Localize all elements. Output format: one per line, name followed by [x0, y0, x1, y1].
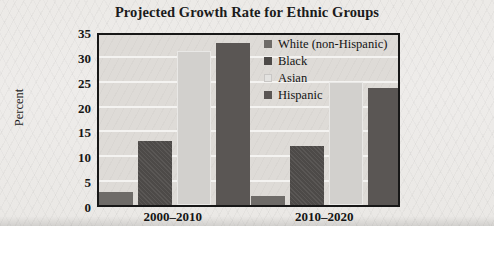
legend-swatch-icon-asian: [264, 74, 272, 82]
y-axis-tick-10: 10: [78, 151, 91, 164]
bar-hispanic-group-1: [216, 43, 250, 205]
legend-item-asian: Asian: [264, 70, 387, 86]
bar-white-group-1: [99, 192, 133, 205]
y-axis-tick-5: 5: [85, 176, 92, 189]
chart-page: Projected Growth Rate for Ethnic Groups …: [0, 0, 494, 254]
bar-white-group-2: [251, 196, 285, 205]
legend-swatch-icon-black: [264, 57, 272, 65]
legend-label-asian: Asian: [278, 71, 307, 86]
legend-label-hispanic: Hispanic: [278, 88, 322, 103]
y-axis-tick-25: 25: [78, 76, 91, 89]
x-axis-tick-1: 2000–2010: [144, 209, 203, 225]
legend-item-hispanic: Hispanic: [264, 87, 387, 103]
bar-hispanic-group-2: [368, 88, 400, 205]
y-axis-tick-20: 20: [78, 101, 91, 114]
y-axis-tick-0: 0: [85, 201, 92, 214]
bar-black-group-2: [290, 146, 324, 205]
chart-legend: White (non-Hispanic)BlackAsianHispanic: [264, 36, 387, 104]
y-axis-tick-labels: 05101520253035: [58, 33, 91, 207]
legend-swatch-icon-white: [264, 40, 272, 48]
x-axis-tick-labels: 2000–20102010–2020: [97, 209, 400, 229]
legend-label-black: Black: [278, 54, 307, 69]
legend-item-white: White (non-Hispanic): [264, 36, 387, 52]
y-axis-tick-15: 15: [78, 126, 91, 139]
legend-swatch-icon-hispanic: [264, 91, 272, 99]
y-axis-label: Percent: [12, 62, 27, 154]
bar-asian-group-1: [177, 51, 211, 206]
bar-black-group-1: [138, 141, 172, 205]
legend-label-white: White (non-Hispanic): [278, 37, 387, 52]
y-axis-tick-35: 35: [78, 27, 91, 40]
x-axis-tick-2: 2010–2020: [295, 209, 354, 225]
y-axis-tick-30: 30: [78, 51, 91, 64]
chart-title: Projected Growth Rate for Ethnic Groups: [0, 4, 494, 21]
legend-item-black: Black: [264, 53, 387, 69]
